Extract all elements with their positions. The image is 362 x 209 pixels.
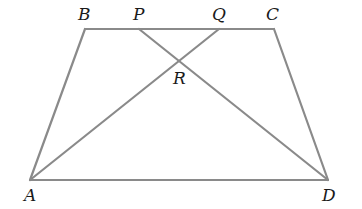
label-d: D — [321, 185, 336, 205]
diagram-svg: B P Q C R A D — [0, 0, 362, 209]
label-b: B — [77, 4, 91, 24]
label-r: R — [172, 68, 186, 88]
label-c: C — [266, 4, 279, 24]
label-q: Q — [212, 4, 226, 24]
segment-pd — [139, 29, 328, 180]
vertex-labels: B P Q C R A D — [22, 4, 336, 205]
edges — [30, 29, 328, 180]
geometry-diagram: B P Q C R A D — [0, 0, 362, 209]
label-a: A — [22, 185, 36, 205]
label-p: P — [132, 4, 145, 24]
